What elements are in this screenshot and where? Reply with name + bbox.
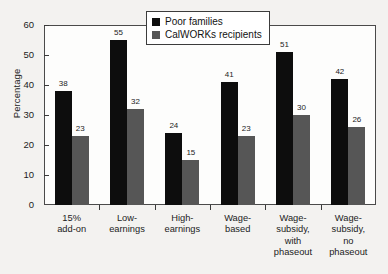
bar <box>238 136 255 205</box>
bar <box>110 40 127 205</box>
y-axis-tick <box>44 145 49 146</box>
bar-value-label: 23 <box>66 125 95 133</box>
bar-value-label: 30 <box>287 104 316 112</box>
bar <box>348 127 365 205</box>
x-axis-category-label: Wage- based <box>210 213 265 236</box>
bar <box>55 91 72 205</box>
bar <box>72 136 89 205</box>
y-axis-title: Percentage <box>11 54 22 134</box>
bar <box>293 115 310 205</box>
bar <box>165 133 182 205</box>
bar-value-label: 42 <box>325 68 354 76</box>
bar-value-label: 15 <box>176 149 205 157</box>
x-axis-tick <box>99 205 100 210</box>
bar-value-label: 41 <box>215 71 244 79</box>
bar-value-label: 51 <box>270 41 299 49</box>
x-axis-category-label: Wage- subsidy, with phaseout <box>265 213 320 259</box>
legend-item: CalWORKs recipients <box>152 28 262 41</box>
y-axis-tick-label: 0 <box>0 200 34 210</box>
y-axis-tick-label: 10 <box>0 170 34 180</box>
x-axis-category-label: High- earnings <box>155 213 210 236</box>
y-axis-tick-label: 30 <box>0 110 34 120</box>
bar-value-label: 24 <box>159 122 188 130</box>
bar-value-label: 32 <box>121 98 150 106</box>
legend-item: Poor families <box>152 15 262 28</box>
y-axis-tick <box>44 115 49 116</box>
y-axis-tick-label: 50 <box>0 50 34 60</box>
y-axis-tick-label: 20 <box>0 140 34 150</box>
bar <box>221 82 238 205</box>
x-axis-tick <box>155 205 156 210</box>
y-axis-tick-label: 60 <box>0 20 34 30</box>
bar-value-label: 26 <box>342 116 371 124</box>
bar <box>127 109 144 205</box>
bar-value-label: 55 <box>104 29 133 37</box>
legend-swatch-poor-families-icon <box>152 18 160 26</box>
y-axis-tick <box>44 25 49 26</box>
x-axis-category-label: Low- earnings <box>99 213 154 236</box>
x-axis-tick <box>321 205 322 210</box>
legend: Poor families CalWORKs recipients <box>146 11 270 45</box>
bar-value-label: 23 <box>232 125 261 133</box>
x-axis-tick <box>210 205 211 210</box>
bar-chart: Percentage 0102030405060 382355322415412… <box>0 0 388 274</box>
y-axis-tick <box>44 175 49 176</box>
y-axis-tick <box>44 55 49 56</box>
legend-label: Poor families <box>165 17 223 27</box>
x-axis-tick <box>265 205 266 210</box>
bar <box>182 160 199 205</box>
x-axis-category-label: Wage- subsidy, no phaseout <box>321 213 376 259</box>
legend-label: CalWORKs recipients <box>165 30 262 40</box>
x-axis-category-label: 15% add-on <box>44 213 99 236</box>
bar <box>276 52 293 205</box>
bar-value-label: 38 <box>49 80 78 88</box>
plot-frame <box>44 25 376 205</box>
legend-swatch-calworks-recipients-icon <box>152 31 160 39</box>
y-axis-tick-label: 40 <box>0 80 34 90</box>
bar <box>331 79 348 205</box>
